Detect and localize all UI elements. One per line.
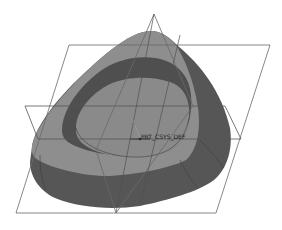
model-body[interactable] xyxy=(30,31,231,208)
csys-label: PRT_CSYS_DEF xyxy=(141,133,185,140)
model-viewport[interactable] xyxy=(0,0,282,230)
